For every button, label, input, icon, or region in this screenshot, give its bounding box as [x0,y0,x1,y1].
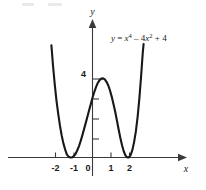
y-tick-label-4: 4 [81,69,86,79]
x-tick-label-zero: 0 [85,163,90,173]
x-tick-label-2: 2 [127,163,132,173]
x-tick-label-minus2: -2 [51,163,59,173]
y-axis-label: y [89,6,95,17]
graph-figure: -2 -1 0 1 2 4 x y y = x4 – 4x2 + 4 [0,0,206,190]
function-plot-svg: -2 -1 0 1 2 4 x y y = x4 – 4x2 + 4 [0,0,206,190]
scan-artifact-right [48,3,62,6]
scan-artifact-left [22,3,34,6]
y-axis-arrow-icon [89,19,97,28]
x-axis-label: x [183,163,189,174]
equation-constant: 4 [162,33,167,43]
x-axis-arrow-icon [178,154,187,162]
function-curve [51,44,143,158]
x-tick-label-1: 1 [108,163,113,173]
x-tick-label-minus1: -1 [70,163,78,173]
equation-annotation: y = x4 – 4x2 + 4 [110,32,167,43]
